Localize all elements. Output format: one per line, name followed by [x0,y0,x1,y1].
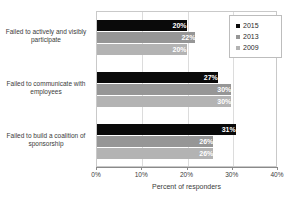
bar-row: 30% [97,96,276,107]
bar-value-label: 30% [97,84,234,95]
legend-swatch-icon [236,24,240,28]
bar-value-label: 27% [97,72,221,83]
legend-item-2009[interactable]: 2009 [236,42,281,53]
category-label: Failed to build a coalition of sponsorsh… [0,132,92,148]
x-tick [96,167,97,170]
x-axis-title: Percent of responders [96,183,277,190]
bar-row: 27% [97,72,276,83]
bar-group: 27%30%30% [97,72,276,108]
bar-chart: 20%22%20%27%30%30%31%26%26% Failed to ac… [0,0,296,197]
x-tick [232,167,233,170]
category-label: Failed to communicate with employees [0,80,92,96]
bar-group: 31%26%26% [97,124,276,160]
bar-row: 26% [97,136,276,147]
bar-value-label: 30% [97,96,234,107]
x-tick [277,167,278,170]
category-label: Failed to actively and visibly participa… [0,28,92,44]
bar-value-label: 31% [97,124,239,135]
legend-swatch-icon [236,46,240,50]
bar-value-label: 26% [97,148,216,159]
x-tick-label: 20% [180,171,193,178]
bar-row: 31% [97,124,276,135]
bar-row: 26% [97,148,276,159]
legend-swatch-icon [236,35,240,39]
bar-value-label: 22% [97,32,198,43]
bar-row: 30% [97,84,276,95]
chart-legend: 201520132009 [229,15,282,58]
legend-label: 2009 [243,44,259,51]
x-tick [187,167,188,170]
x-tick-label: 10% [135,171,148,178]
bar-value-label: 26% [97,136,216,147]
legend-label: 2015 [243,22,259,29]
x-tick-label: 30% [225,171,238,178]
x-tick-label: 40% [270,171,283,178]
legend-item-2015[interactable]: 2015 [236,20,281,31]
bar-value-label: 20% [97,20,190,31]
legend-label: 2013 [243,33,259,40]
x-tick-label: 0% [91,171,100,178]
bar-value-label: 20% [97,44,190,55]
legend-item-2013[interactable]: 2013 [236,31,281,42]
x-tick [141,167,142,170]
